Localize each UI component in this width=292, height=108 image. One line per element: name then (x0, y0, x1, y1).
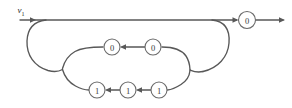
edge-inner-left-upper (63, 47, 104, 69)
node-lower-3-label: 1 (157, 86, 161, 96)
node-upper-2-label: 0 (151, 43, 155, 53)
diagram-canvas: 0 0 0 1 1 1 v1 (0, 0, 292, 108)
edge-outer-loop-right-cusp (190, 70, 203, 72)
arrowhead-into-output-node (233, 17, 239, 23)
node-output-label: 0 (245, 16, 249, 26)
edge-inner-left-lower (63, 70, 90, 91)
edge-outer-loop-right (203, 20, 229, 72)
node-upper-1-label: 0 (110, 43, 114, 53)
node-lower-2-label: 1 (126, 86, 130, 96)
arrowhead-bottom-row-left-1 (105, 87, 111, 93)
input-label: v1 (18, 5, 25, 17)
arrowhead-exit-right (279, 17, 285, 23)
diagram-svg: 0 0 0 1 1 1 v1 (0, 0, 292, 108)
edge-inner-right-upper (162, 47, 190, 70)
edge-outer-loop-left (27, 20, 63, 71)
arrowhead-top-row-left (120, 44, 126, 50)
input-label-subscript: 1 (22, 11, 25, 17)
arrowhead-bottom-row-left-2 (136, 87, 142, 93)
arrowhead-input-right (30, 17, 36, 23)
node-lower-1-label: 1 (95, 86, 99, 96)
edge-inner-right-lower (168, 71, 191, 91)
